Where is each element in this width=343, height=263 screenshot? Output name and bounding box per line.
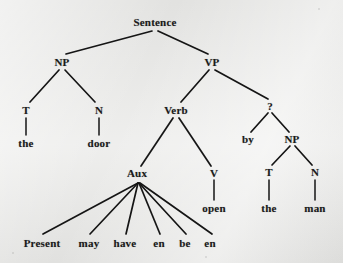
tree-node-t2: T xyxy=(265,167,273,178)
tree-node-aux: Aux xyxy=(127,168,147,179)
tree-node-the1: the xyxy=(18,138,33,149)
tree-node-be: be xyxy=(179,238,190,249)
tree-edge-verb-to-v xyxy=(179,118,211,166)
tree-edge-vp-to-qmark xyxy=(215,70,268,99)
tree-edge-aux-to-may xyxy=(90,183,138,234)
tree-node-by: by xyxy=(242,134,254,145)
paper-speck xyxy=(205,256,207,258)
tree-node-verb: Verb xyxy=(164,105,188,116)
tree-edge-qmark-to-by xyxy=(251,113,268,132)
tree-node-s: Sentence xyxy=(133,17,176,28)
tree-node-man: man xyxy=(304,203,325,214)
paper-speck xyxy=(318,8,320,10)
tree-node-qmark: ? xyxy=(267,101,273,112)
tree-edge-qmark-to-np2 xyxy=(272,113,289,132)
tree-node-en1: en xyxy=(153,238,164,249)
tree-edge-aux-to-present xyxy=(43,183,138,234)
syntax-tree-figure: SentenceNPVPTNthedoorVerb?byNPTNthemanAu… xyxy=(0,0,343,263)
tree-node-v: V xyxy=(210,168,218,179)
tree-node-en2: en xyxy=(204,238,215,249)
tree-edge-aux-to-have xyxy=(126,183,138,234)
tree-node-np2: NP xyxy=(284,134,299,145)
tree-edge-np1-to-n1 xyxy=(65,70,95,102)
tree-edge-np2-to-n2 xyxy=(295,146,312,165)
tree-node-have: have xyxy=(114,238,137,249)
tree-edge-vp-to-verb xyxy=(181,70,209,102)
tree-node-n2: N xyxy=(311,167,319,178)
tree-node-vp: VP xyxy=(204,57,219,68)
tree-edge-np1-to-t1 xyxy=(30,70,59,102)
tree-node-may: may xyxy=(79,238,100,249)
tree-node-np1: NP xyxy=(54,57,69,68)
tree-edge-aux-to-be xyxy=(139,183,186,234)
paper-speck xyxy=(12,252,14,254)
tree-edges-layer xyxy=(0,0,343,263)
tree-node-open: open xyxy=(202,203,225,214)
tree-node-t1: T xyxy=(22,105,30,116)
tree-edge-s-to-vp xyxy=(158,31,208,54)
tree-edge-verb-to-aux xyxy=(141,118,173,166)
tree-edge-aux-to-en2 xyxy=(140,183,212,234)
tree-node-n1: N xyxy=(95,105,103,116)
tree-node-present: Present xyxy=(24,238,61,249)
tree-edge-np2-to-t2 xyxy=(272,146,290,165)
tree-node-door: door xyxy=(88,138,111,149)
tree-node-the2: the xyxy=(261,203,276,214)
tree-edge-s-to-np1 xyxy=(66,31,152,54)
